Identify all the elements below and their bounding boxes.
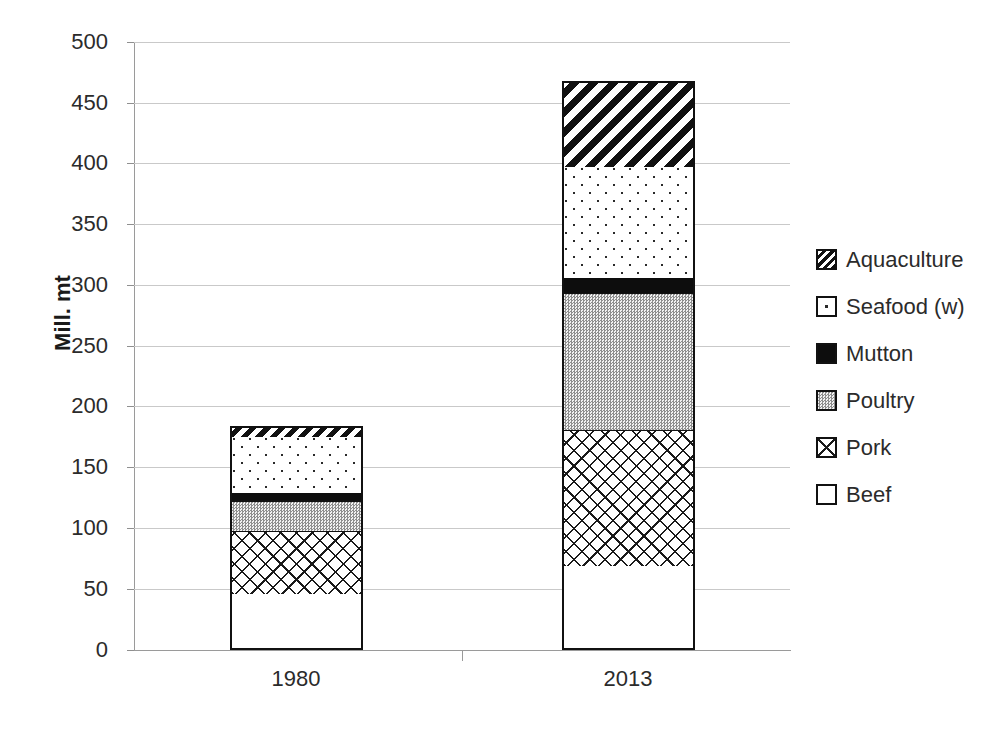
legend-label-beef: Beef (846, 484, 891, 506)
legend-swatch-seafood-icon (816, 296, 837, 317)
legend-swatch-poultry-icon (816, 390, 837, 411)
bar-segment-1980-pork[interactable] (230, 530, 363, 594)
bar-segment-1980-beef[interactable] (230, 593, 363, 650)
x-category-label-2013: 2013 (528, 666, 728, 692)
bar-segment-2013-seafood[interactable] (562, 167, 695, 278)
legend-label-seafood: Seafood (w) (846, 296, 965, 318)
category-separator-tick (462, 650, 463, 661)
legend-item-mutton[interactable]: Mutton (816, 330, 1001, 377)
legend-label-mutton: Mutton (846, 343, 913, 365)
bar-segment-2013-aquaculture[interactable] (562, 81, 695, 167)
y-tick-label-500: 500 (48, 31, 108, 53)
y-tick-label-350: 350 (48, 213, 108, 235)
y-tick-label-300: 300 (48, 274, 108, 296)
legend-label-pork: Pork (846, 437, 891, 459)
bar-1980[interactable] (230, 42, 363, 650)
bar-segment-2013-beef[interactable] (562, 565, 695, 650)
bar-segment-2013-pork[interactable] (562, 429, 695, 566)
bar-segment-2013-mutton[interactable] (562, 277, 695, 293)
y-tick-label-450: 450 (48, 92, 108, 114)
y-tick-label-250: 250 (48, 335, 108, 357)
legend-swatch-mutton-icon (816, 343, 837, 364)
y-tick-label-400: 400 (48, 152, 108, 174)
bar-segment-2013-poultry[interactable] (562, 292, 695, 430)
bar-segment-1980-seafood[interactable] (230, 437, 363, 493)
bar-segment-1980-aquaculture[interactable] (230, 426, 363, 437)
y-tick-label-50: 50 (48, 578, 108, 600)
legend-item-beef[interactable]: Beef (816, 471, 1001, 518)
y-tick-label-150: 150 (48, 456, 108, 478)
stacked-bar-chart: Mill. mt 500 450 400 350 300 250 200 150… (0, 0, 1005, 729)
legend-swatch-aquaculture-icon (816, 249, 837, 270)
legend-item-aquaculture[interactable]: Aquaculture (816, 236, 1001, 283)
x-category-label-1980: 1980 (196, 666, 396, 692)
bar-2013[interactable] (562, 42, 695, 650)
plot-area (134, 42, 790, 650)
legend-label-poultry: Poultry (846, 390, 914, 412)
legend-swatch-pork-icon (816, 437, 837, 458)
y-tick-label-0: 0 (48, 639, 108, 661)
legend: Aquaculture Seafood (w) Mutton Poultry P… (816, 236, 1001, 518)
legend-item-poultry[interactable]: Poultry (816, 377, 1001, 424)
y-axis-title: Mill. mt (50, 243, 76, 383)
legend-swatch-beef-icon (816, 484, 837, 505)
legend-label-aquaculture: Aquaculture (846, 249, 963, 271)
bar-segment-1980-poultry[interactable] (230, 500, 363, 531)
y-tick-label-200: 200 (48, 395, 108, 417)
bar-segment-1980-mutton[interactable] (230, 492, 363, 500)
y-tick-label-100: 100 (48, 517, 108, 539)
legend-item-seafood[interactable]: Seafood (w) (816, 283, 1001, 330)
legend-item-pork[interactable]: Pork (816, 424, 1001, 471)
